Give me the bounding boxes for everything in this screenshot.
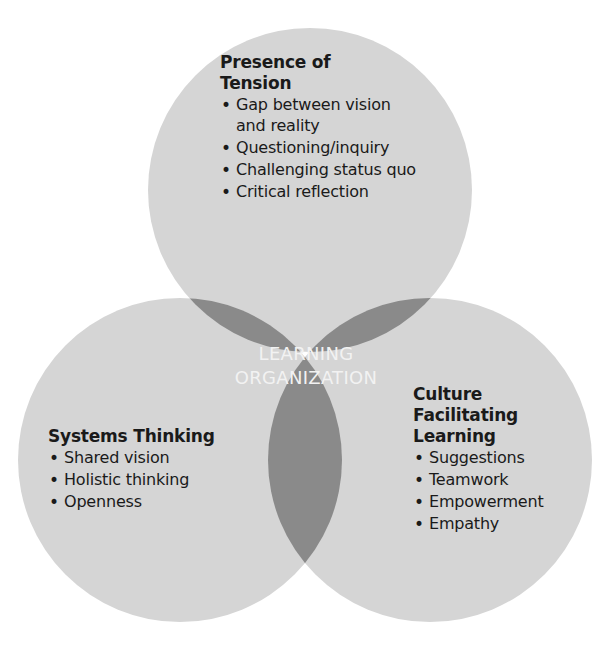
list-item: Suggestions bbox=[413, 447, 544, 469]
presence-of-tension-block: Presence of Tension Gap between vision a… bbox=[220, 52, 416, 203]
title-line: Learning bbox=[413, 426, 544, 447]
culture-facilitating-learning-title: Culture Facilitating Learning bbox=[413, 384, 544, 447]
title-line: Presence of bbox=[220, 52, 416, 73]
list-item: Empathy bbox=[413, 513, 544, 535]
presence-of-tension-list: Gap between vision and reality Questioni… bbox=[220, 94, 416, 203]
list-item: Gap between vision bbox=[220, 94, 416, 116]
systems-thinking-list: Shared vision Holistic thinking Openness bbox=[48, 447, 215, 513]
center-label: LEARNING ORGANIZATION bbox=[216, 342, 396, 390]
list-item: Challenging status quo bbox=[220, 159, 416, 181]
systems-thinking-block: Systems Thinking Shared vision Holistic … bbox=[48, 426, 215, 513]
presence-of-tension-title: Presence of Tension bbox=[220, 52, 416, 94]
list-item: Shared vision bbox=[48, 447, 215, 469]
culture-facilitating-learning-block: Culture Facilitating Learning Suggestion… bbox=[413, 384, 544, 535]
title-line: Culture bbox=[413, 384, 544, 405]
list-item: Questioning/inquiry bbox=[220, 137, 416, 159]
list-item: Holistic thinking bbox=[48, 469, 215, 491]
list-item: Teamwork bbox=[413, 469, 544, 491]
title-line: Tension bbox=[220, 73, 416, 94]
list-item: Critical reflection bbox=[220, 181, 416, 203]
systems-thinking-title: Systems Thinking bbox=[48, 426, 215, 447]
list-item: Openness bbox=[48, 491, 215, 513]
center-label-line2: ORGANIZATION bbox=[216, 366, 396, 390]
center-label-line1: LEARNING bbox=[216, 342, 396, 366]
list-item-continuation: and reality bbox=[220, 115, 416, 137]
title-line: Facilitating bbox=[413, 405, 544, 426]
culture-facilitating-learning-list: Suggestions Teamwork Empowerment Empathy bbox=[413, 447, 544, 535]
list-item: Empowerment bbox=[413, 491, 544, 513]
